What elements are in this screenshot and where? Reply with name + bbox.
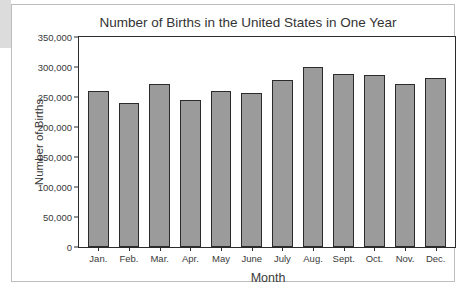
bar: [395, 84, 416, 247]
bar: [119, 103, 140, 247]
bar: [333, 74, 354, 247]
y-axis-tick-label: 150,000: [38, 152, 74, 163]
y-axis-tick-label: 300,000: [38, 62, 74, 73]
y-axis-tick: 100,000: [38, 182, 79, 193]
x-axis-tick-label: Oct.: [359, 247, 390, 264]
bar-slot: [359, 37, 390, 247]
bar-slot: [420, 37, 451, 247]
bar-slot: [390, 37, 421, 247]
bar-slot: [114, 37, 145, 247]
y-axis-tick-label: 350,000: [38, 32, 74, 43]
y-axis-tick: 0: [67, 242, 79, 253]
y-axis-tick-label: 0: [67, 242, 74, 253]
bar: [364, 75, 385, 247]
x-axis-tick-label: Aug.: [298, 247, 329, 264]
bar-slot: [83, 37, 114, 247]
x-axis-tick-label: Nov.: [390, 247, 421, 264]
y-axis-tick-label: 200,000: [38, 122, 74, 133]
bar: [88, 91, 109, 247]
x-axis-tick-label: Dec.: [420, 247, 451, 264]
y-axis-tick: 250,000: [38, 92, 79, 103]
x-axis-tick-label: Jan.: [83, 247, 114, 264]
bar-slot: [267, 37, 298, 247]
x-axis-ticks: Jan.Feb.Mar.Apr.MayJuneJulyAug.Sept.Oct.…: [79, 247, 455, 264]
x-axis-tick-label: June: [236, 247, 267, 264]
y-axis-tick-label: 250,000: [38, 92, 74, 103]
y-axis-tick: 200,000: [38, 122, 79, 133]
bar-slot: [298, 37, 329, 247]
bar-slot: [206, 37, 237, 247]
y-axis-tick: 150,000: [38, 152, 79, 163]
x-axis-tick-label: May: [206, 247, 237, 264]
bar-series: [79, 37, 455, 247]
plot-inner: 350,000300,000250,000200,000150,000100,0…: [79, 37, 455, 247]
y-axis-tick: 300,000: [38, 62, 79, 73]
x-axis-tick-label: Sept.: [328, 247, 359, 264]
y-axis-tick: 350,000: [38, 32, 79, 43]
bar: [241, 93, 262, 247]
left-edge-strip: [0, 0, 11, 48]
bar: [211, 91, 232, 247]
chart-title: Number of Births in the United States in…: [40, 15, 456, 30]
bar-slot: [236, 37, 267, 247]
bar: [425, 78, 446, 247]
x-axis-tick-label: July: [267, 247, 298, 264]
bar-slot: [144, 37, 175, 247]
bar-slot: [328, 37, 359, 247]
y-axis-tick: 50,000: [43, 212, 79, 223]
y-axis-tick-label: 50,000: [43, 212, 74, 223]
x-axis-tick-label: Mar.: [144, 247, 175, 264]
chart-card: Number of Births in the United States in…: [11, 4, 455, 282]
x-axis-label: Month: [78, 271, 458, 285]
bar: [272, 80, 293, 247]
bar: [149, 84, 170, 247]
chart-page: Number of Births in the United States in…: [0, 0, 461, 288]
bar: [180, 100, 201, 247]
y-axis-tick-label: 100,000: [38, 182, 74, 193]
bar: [303, 67, 324, 247]
bar-slot: [175, 37, 206, 247]
x-axis-tick-label: Feb.: [114, 247, 145, 264]
x-axis-tick-label: Apr.: [175, 247, 206, 264]
plot-area: 350,000300,000250,000200,000150,000100,0…: [78, 36, 456, 248]
